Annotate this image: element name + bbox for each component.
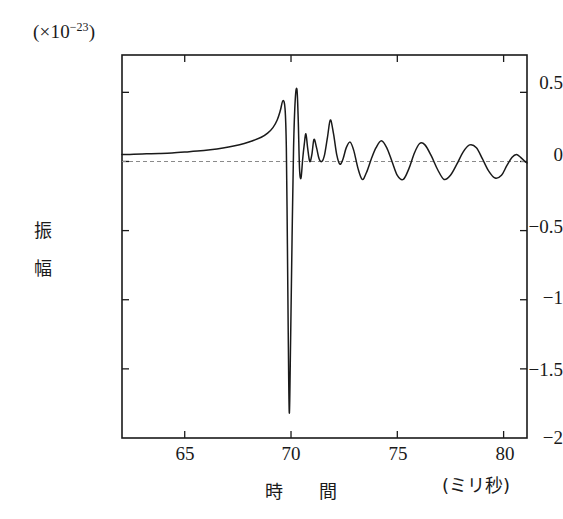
plot-area <box>0 0 563 519</box>
axis-ticks <box>122 55 527 438</box>
waveform-line <box>122 88 527 413</box>
frame-border <box>122 55 527 438</box>
plot-frame <box>122 55 527 438</box>
chart-figure: (×10−23) 振 幅 0.5 0 −0.5 −1 −1.5 −2 65 70… <box>0 0 563 519</box>
